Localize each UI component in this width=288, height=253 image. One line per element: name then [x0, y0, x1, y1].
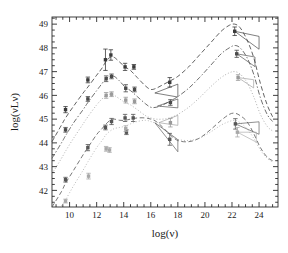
data-marker	[233, 30, 236, 33]
data-marker	[64, 128, 67, 131]
data-point	[86, 173, 90, 179]
data-point	[124, 97, 128, 103]
data-marker	[108, 148, 111, 151]
data-marker	[234, 122, 237, 125]
data-marker	[133, 88, 136, 91]
data-point	[124, 130, 128, 135]
data-marker	[131, 116, 134, 119]
x-tick-label: 24	[255, 210, 265, 220]
bowtie-sed-curve-1	[155, 84, 178, 97]
data-marker	[123, 116, 126, 119]
y-tick-label: 48	[39, 43, 49, 53]
model-curve-sed-curve-5	[61, 120, 272, 206]
x-tick-label: 16	[146, 210, 156, 220]
data-marker	[64, 108, 67, 111]
data-marker	[104, 126, 107, 129]
model-curve-sed-curve-2	[52, 46, 273, 159]
x-axis-title: log(ν)	[152, 227, 179, 240]
data-marker	[236, 76, 239, 79]
data-point	[107, 148, 111, 153]
data-marker	[124, 87, 127, 90]
data-point	[103, 125, 107, 130]
bowtie-sed-curve-3	[159, 115, 178, 125]
x-tick-label: 18	[173, 210, 183, 220]
bowtie-sed-curve-4	[155, 123, 178, 152]
y-axis-tick-labels: 4243444546474849	[39, 19, 49, 195]
data-point	[168, 118, 172, 127]
sed-data-points	[63, 27, 240, 203]
data-marker	[132, 65, 135, 68]
data-marker	[123, 65, 126, 68]
sed-model-curves	[52, 24, 273, 207]
plot-frame-group	[52, 17, 278, 207]
y-tick-label: 45	[39, 114, 49, 124]
sed-figure: 1012141618202224 4243444546474849 log(ν)…	[0, 0, 288, 253]
data-point	[131, 114, 135, 121]
bowtie-sed-curve-3	[238, 78, 254, 88]
data-point	[168, 78, 172, 88]
data-marker	[110, 92, 113, 95]
data-marker	[64, 199, 67, 202]
data-marker	[124, 127, 127, 130]
data-point	[232, 27, 236, 36]
data-point	[86, 77, 90, 83]
data-marker	[133, 100, 136, 103]
data-marker	[86, 78, 89, 81]
data-marker	[104, 94, 107, 97]
data-marker	[235, 52, 238, 55]
data-marker	[169, 101, 172, 104]
data-point	[63, 107, 67, 113]
data-point	[123, 63, 127, 70]
data-marker	[236, 130, 239, 133]
data-point	[132, 87, 136, 92]
data-point	[63, 199, 67, 203]
x-tick-label: 20	[200, 210, 210, 220]
data-point	[109, 92, 113, 97]
data-marker	[125, 130, 128, 133]
data-marker	[87, 174, 90, 177]
x-tick-label: 10	[65, 210, 75, 220]
y-tick-label: 42	[39, 186, 48, 196]
data-point	[104, 76, 108, 82]
data-marker	[109, 53, 112, 56]
x-tick-label: 14	[119, 210, 129, 220]
data-marker	[124, 98, 127, 101]
data-marker	[64, 178, 67, 181]
y-axis-ticks	[52, 18, 278, 202]
x-tick-label: 22	[227, 210, 236, 220]
data-point	[236, 75, 240, 81]
data-point	[63, 177, 67, 182]
y-tick-label: 44	[39, 138, 49, 148]
data-point	[235, 50, 239, 57]
y-tick-label: 43	[39, 162, 49, 172]
data-point	[86, 97, 90, 102]
data-point	[168, 100, 172, 106]
x-axis-tick-labels: 1012141618202224	[65, 210, 264, 220]
data-marker	[168, 138, 171, 141]
data-point	[109, 74, 113, 79]
data-point	[104, 146, 108, 151]
y-tick-label: 47	[39, 67, 49, 77]
data-marker	[86, 97, 89, 100]
plot-frame	[52, 17, 278, 207]
model-curve-sed-curve-1	[52, 24, 273, 142]
y-tick-label: 46	[39, 91, 49, 101]
data-marker	[169, 121, 172, 124]
data-point	[63, 127, 67, 132]
data-point	[103, 49, 107, 70]
data-marker	[86, 146, 89, 149]
data-marker	[168, 81, 171, 84]
model-curve-sed-curve-3	[52, 72, 273, 174]
y-axis-title-text: log(νLν)	[8, 93, 21, 131]
data-marker	[104, 77, 107, 80]
data-point	[132, 65, 136, 70]
data-point	[109, 50, 113, 60]
y-axis-title: log(νLν)	[8, 93, 21, 131]
data-point	[132, 99, 136, 104]
data-marker	[104, 58, 107, 61]
bowtie-sed-curve-2	[158, 99, 178, 108]
y-tick-label: 49	[39, 19, 49, 29]
bowtie-sed-curve-2	[237, 54, 255, 67]
data-marker	[110, 75, 113, 78]
sed-plot-canvas: 1012141618202224 4243444546474849 log(ν)…	[0, 0, 288, 253]
